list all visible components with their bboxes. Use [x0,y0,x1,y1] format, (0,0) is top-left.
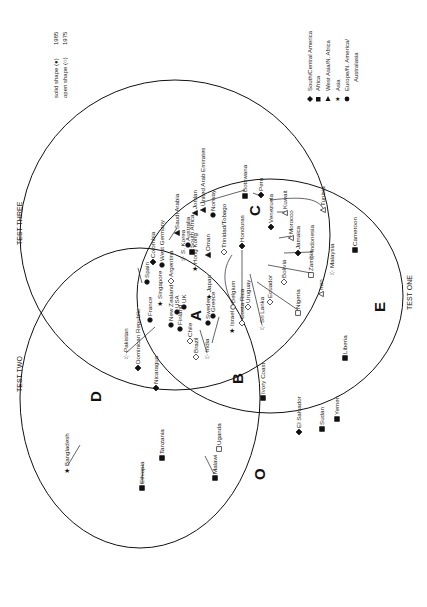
country-point: Honduras [238,215,245,249]
country-point: Trinidad/Tobago [220,203,227,255]
legend-region-label: Africa [315,75,321,91]
square-marker-icon [140,486,145,491]
star-marker-icon: ★ [157,300,163,307]
circle-marker-icon [211,213,216,218]
triangle-marker-icon [200,207,205,212]
country-label: Ethiopia [138,461,145,484]
country-point: Saudi Arabia [173,193,180,235]
diamond-marker-icon [239,243,245,249]
country-label: UK [180,294,187,303]
square-marker-icon [213,476,218,481]
region-c-label: C [246,205,263,216]
country-label: El Salvador [295,396,302,428]
country-label: Venezuela [267,194,274,223]
star-marker-icon: ☆ [329,269,335,276]
country-label: France [146,296,153,316]
country-point: Nicaragua [152,355,159,391]
country-point: Dominican Republic [134,309,141,371]
country-label: Malawi [211,455,218,474]
square-marker-icon [261,396,266,401]
square-marker-icon [343,356,348,361]
legend-region-label: Australasia [353,52,359,82]
country-label: Pakistan [122,328,129,352]
country-point: El Salvador [295,396,302,435]
country-point: Zambia [307,250,314,277]
diamond-marker-icon [268,224,274,230]
triangle-marker-icon [320,207,325,212]
test-three-circle [20,80,330,390]
country-label: Brazil [192,338,199,353]
diamond-marker-icon [193,354,199,360]
star-marker-icon: ★ [64,467,70,474]
circle-marker-icon [182,305,187,310]
country-label: Zambia [307,250,314,271]
diamond-marker-icon [150,259,156,265]
country-label: Saudi Arabia [173,193,180,229]
square-marker-icon [217,447,222,452]
test-one-label: TEST ONE [406,275,413,310]
country-point: France [146,296,153,322]
country-point: Botswana [241,164,248,198]
country-label: Japan [205,275,212,292]
region-o-label: O [251,468,268,480]
country-label: Dominican Republic [134,309,141,364]
country-point: Ecuador [266,275,273,305]
country-point: Oman [204,234,211,258]
country-label: Kuwait [281,190,288,209]
country-label: United Arab Emirates [199,148,206,206]
diagram-canvas: TEST THREE TEST TWO TEST ONE A B C D E O… [0,0,427,607]
diamond-marker-icon [153,385,159,391]
country-point: ☆Sri Lanka [258,296,265,330]
country-label: West Germany [158,219,165,261]
country-point: South Africa [188,214,195,254]
country-label: Indonesia [308,225,315,252]
test-two-circle [20,248,260,548]
region-b-label: B [229,373,246,384]
country-point: Yemen [333,395,340,421]
country-label: Yemen [333,395,340,415]
square-marker-icon [353,248,358,253]
region-legend: South/Central America Africa West Asia/N… [307,30,359,102]
circle-marker-icon [211,314,216,319]
diamond-marker-icon [281,279,287,285]
country-label: Ecuador [266,275,273,298]
country-point: Liberia [341,335,348,360]
country-point: Spain [143,262,150,285]
country-point: Tunisia [319,186,326,213]
country-label: Nigeria [294,289,301,309]
country-point: Belgium [229,281,236,310]
diamond-marker-icon [135,365,141,371]
country-label: Norway [209,189,216,211]
region-e-label: E [371,302,388,312]
country-label: Singapore [156,270,163,299]
square-marker-icon [296,311,301,316]
country-label: India [203,338,210,352]
square-marker-icon [243,194,248,199]
legend-open-label: open shape (○) [62,57,68,98]
country-point: Cameroon [351,217,358,253]
diamond-marker-icon [267,299,273,305]
country-point: Brazil [192,338,199,360]
square-marker-icon [160,456,165,461]
country-point: West Germany [158,219,165,267]
diamond-marker-icon [295,250,301,256]
country-label: Iran [317,279,324,290]
country-point: Nigeria [294,289,301,315]
country-label: Morocco [287,210,294,234]
circle-marker-icon [145,280,150,285]
country-point: Malawi [211,455,218,481]
country-label: Peru [257,177,264,191]
country-point: Jamaica [294,225,301,256]
diamond-marker-icon [221,249,227,255]
country-point: Peru [257,177,264,198]
country-label: South Africa [188,214,195,248]
country-label: Botswana [241,164,248,192]
country-label: Uganda [215,423,222,445]
country-label: Nicaragua [152,355,159,384]
circle-marker-icon [206,321,211,326]
country-point: Sudan [318,407,325,432]
country-label: Greece [209,291,216,312]
country-label: Argentina [167,250,174,277]
legend-solid-label: solid shape (●) [53,58,59,98]
diamond-marker-icon [258,192,264,198]
